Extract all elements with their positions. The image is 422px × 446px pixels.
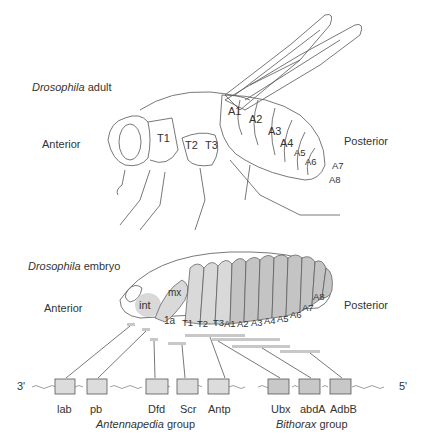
gene-box-dfd	[146, 379, 168, 394]
embryo-anterior-label: Anterior	[44, 303, 83, 314]
gene-box-abda	[299, 379, 320, 394]
adult-seg-a7: A7	[332, 161, 344, 171]
adult-seg-a6: A6	[305, 157, 317, 167]
gene-box-ubx	[268, 379, 289, 394]
adult-seg-a4: A4	[280, 138, 293, 149]
adult-posterior-label: Posterior	[344, 136, 388, 147]
five-prime-label: 5'	[399, 381, 407, 392]
embryo-seg-a2: A2	[237, 319, 249, 329]
gene-box-abdb	[330, 379, 351, 394]
wing-lower-icon	[225, 24, 362, 110]
adult-seg-t1: T1	[157, 133, 170, 144]
embryo-title: Drosophila embryo	[28, 261, 120, 272]
adult-seg-a8: A8	[329, 175, 341, 185]
gene-box-antp	[208, 379, 229, 394]
bithorax-group-label: Bithorax group	[276, 419, 348, 430]
embryo-seg-a6: A6	[290, 310, 302, 320]
embryo-seg-t1: T1	[182, 318, 193, 328]
adult-title: Drosophila adult	[32, 82, 112, 93]
gene-label-dfd: Dfd	[148, 404, 165, 415]
gene-box-lab	[55, 379, 75, 394]
embryo-posterior-label: Posterior	[344, 300, 388, 311]
adult-seg-a5: A5	[294, 148, 306, 158]
eye-icon	[119, 124, 141, 160]
embryo-seg-a7: A7	[302, 303, 314, 313]
embryo-seg-t3: T3	[213, 318, 224, 328]
gene-box-scr	[177, 379, 198, 394]
embryo-seg-mx: mx	[168, 288, 181, 298]
adult-seg-a3: A3	[268, 126, 281, 137]
embryo-seg-int: int	[139, 300, 151, 311]
three-prime-label: 3'	[17, 381, 25, 392]
gene-label-abda: abdA	[300, 404, 326, 415]
embryo-seg-a1: A1	[224, 319, 236, 329]
adult-seg-a2: A2	[249, 114, 262, 125]
embryo-seg-a3: A3	[251, 318, 263, 328]
gene-label-scr: Scr	[180, 404, 197, 415]
gene-label-lab: lab	[57, 404, 72, 415]
gene-label-pb: pb	[90, 404, 102, 415]
embryo-seg-1a: 1a	[164, 316, 175, 326]
adult-anterior-label: Anterior	[42, 139, 81, 150]
gene-label-abdb: AdbB	[330, 404, 357, 415]
adult-seg-t3: T3	[205, 140, 218, 151]
diagram-canvas	[0, 0, 422, 446]
embryo-seg-t2: T2	[197, 319, 208, 329]
adult-seg-a1: A1	[228, 106, 241, 117]
gene-box-pb	[87, 379, 107, 394]
antennapedia-group-label: Antennapedia group	[96, 419, 195, 430]
embryo-seg-a8: A8	[313, 292, 325, 302]
gene-label-antp: Antp	[208, 404, 231, 415]
gene-label-ubx: Ubx	[271, 404, 291, 415]
adult-seg-t2: T2	[185, 140, 198, 151]
gene-boxes	[55, 379, 351, 394]
embryo-seg-a5: A5	[277, 314, 289, 324]
embryo-seg-a4: A4	[264, 316, 276, 326]
adult-fly-drawing	[108, 14, 362, 230]
